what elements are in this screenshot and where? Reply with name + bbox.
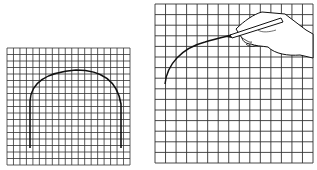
arch-outline <box>30 70 121 148</box>
left-grid <box>7 48 130 165</box>
figure-canvas <box>0 0 317 170</box>
hand-icon <box>236 12 313 58</box>
left-grid-panel <box>0 0 317 170</box>
drawn-curve <box>165 35 232 84</box>
